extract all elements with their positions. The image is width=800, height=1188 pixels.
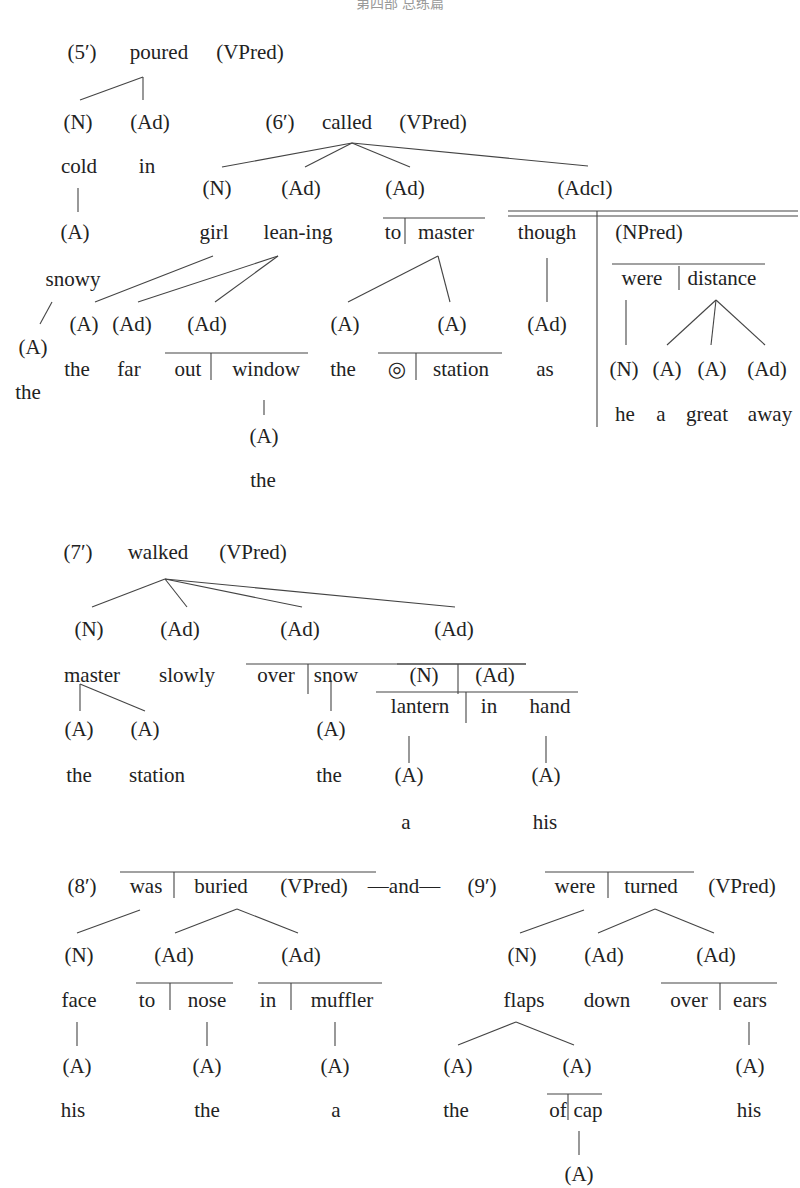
tag-a: (A) [69, 312, 98, 336]
word-cap: cap [573, 1098, 602, 1122]
word-muffler: muffler [311, 988, 374, 1012]
word-was: was [130, 874, 163, 898]
word-down: down [584, 988, 631, 1012]
diagram-8-root-tag: (VPred) [280, 874, 348, 898]
diagram-page: 第四部 总练篇 [0, 0, 800, 1188]
diagram-6-root-tag: (VPred) [399, 110, 467, 134]
tag-a: (A) [697, 357, 726, 381]
tag-a: (A) [564, 1162, 593, 1186]
word-station: station [433, 357, 489, 381]
tag-ad: (Ad) [385, 176, 425, 200]
word-as: as [536, 357, 554, 381]
tag-ad: (Ad) [696, 943, 736, 967]
word-a: a [656, 402, 665, 426]
word-station: station [129, 763, 185, 787]
word-far: far [117, 357, 140, 381]
tag-n: (N) [64, 943, 93, 967]
word-to: to [385, 220, 401, 244]
tag-a: (A) [562, 1054, 591, 1078]
word-his: his [533, 810, 558, 834]
word-his: his [737, 1098, 762, 1122]
word-slowly: slowly [159, 663, 215, 687]
word-window: window [232, 357, 300, 381]
word-the: the [66, 763, 92, 787]
diagram-9-root-tag: (VPred) [708, 874, 776, 898]
word-a: a [331, 1098, 340, 1122]
word-out: out [175, 357, 202, 381]
tag-ad: (Ad) [747, 357, 787, 381]
word-in: in [481, 694, 497, 718]
word-cold: cold [61, 154, 97, 178]
tag-a: (A) [652, 357, 681, 381]
word-ears: ears [733, 988, 767, 1012]
word-nose: nose [188, 988, 227, 1012]
tag-adcl: (Adcl) [558, 176, 613, 200]
diagram-7-label: (7′) [63, 540, 92, 564]
tag-ad: (Ad) [187, 312, 227, 336]
word-were: were [555, 874, 596, 898]
tag-n: (N) [409, 663, 438, 687]
word-the: the [15, 380, 41, 404]
tag-ad: (Ad) [475, 663, 515, 687]
tag-ad: (Ad) [527, 312, 567, 336]
tag-n: (N) [609, 357, 638, 381]
diagram-5-label: (5′) [67, 40, 96, 64]
word-snow: snow [314, 663, 358, 687]
tag-a: (A) [130, 717, 159, 741]
word-the: the [443, 1098, 469, 1122]
tag-a: (A) [320, 1054, 349, 1078]
tag-a: (A) [735, 1054, 764, 1078]
diagram-6-root-word: called [322, 110, 372, 134]
tag-ad: (Ad) [154, 943, 194, 967]
word-in: in [139, 154, 155, 178]
diagram-6-label: (6′) [265, 110, 294, 134]
tag-a: (A) [531, 763, 560, 787]
word-master: master [418, 220, 474, 244]
word-buried: buried [194, 874, 248, 898]
tag-n: (N) [202, 176, 231, 200]
tag-ad: (Ad) [434, 617, 474, 641]
tag-ad: (Ad) [281, 176, 321, 200]
word-the: the [64, 357, 90, 381]
word-face: face [62, 988, 97, 1012]
tag-a: (A) [394, 763, 423, 787]
word-lantern: lantern [391, 694, 449, 718]
tag-ad: (Ad) [281, 943, 321, 967]
tag-a: (A) [443, 1054, 472, 1078]
diagram-7-root-word: walked [128, 540, 189, 564]
tag-a: (A) [18, 335, 47, 359]
word-the: the [194, 1098, 220, 1122]
word-girl: girl [199, 220, 228, 244]
word-snowy: snowy [46, 267, 101, 291]
word-away: away [748, 402, 792, 426]
word-flaps: flaps [504, 988, 545, 1012]
tag-ad: (Ad) [130, 110, 170, 134]
tag-a: (A) [316, 717, 345, 741]
diagram-8-label: (8′) [67, 874, 96, 898]
circle-marker-icon: ◎ [388, 357, 406, 381]
word-master: master [64, 663, 120, 687]
word-his: his [61, 1098, 86, 1122]
tag-npred: (NPred) [615, 220, 683, 244]
word-leaning: lean-ing [264, 220, 333, 244]
word-turned: turned [624, 874, 678, 898]
tag-n: (N) [74, 617, 103, 641]
tag-n: (N) [63, 110, 92, 134]
tag-a: (A) [437, 312, 466, 336]
tag-ad: (Ad) [280, 617, 320, 641]
word-hand: hand [530, 694, 571, 718]
word-were: were [622, 266, 663, 290]
tag-ad: (Ad) [584, 943, 624, 967]
running-header: 第四部 总练篇 [356, 0, 444, 12]
word-he: he [615, 402, 635, 426]
tag-a: (A) [330, 312, 359, 336]
tag-ad: (Ad) [160, 617, 200, 641]
diagram-7-root-tag: (VPred) [219, 540, 287, 564]
word-though: though [518, 220, 576, 244]
tag-a: (A) [60, 220, 89, 244]
word-a: a [401, 810, 410, 834]
word-over: over [257, 663, 294, 687]
conjunction-and: —and— [368, 874, 440, 898]
diagram-9-label: (9′) [467, 874, 496, 898]
word-the: the [316, 763, 342, 787]
